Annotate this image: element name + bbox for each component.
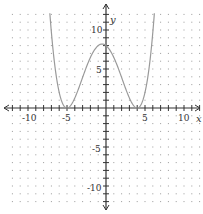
x-axis-label: x <box>196 113 202 124</box>
y-tick-label-5: 5 <box>96 65 102 75</box>
function-graph: -10 -5 5 10 x 10 5 -5 -10 y <box>0 0 203 214</box>
y-axis-label: y <box>109 14 116 25</box>
y-tick-label-neg10: -10 <box>87 183 102 193</box>
y-tick-label-10: 10 <box>91 25 103 35</box>
x-tick-label-neg5: -5 <box>62 113 71 123</box>
x-tick-label-5: 5 <box>142 113 148 123</box>
x-tick-label-neg10: -10 <box>22 113 37 123</box>
x-tick-label-10: 10 <box>178 113 190 123</box>
y-tick-label-neg5: -5 <box>92 144 101 154</box>
